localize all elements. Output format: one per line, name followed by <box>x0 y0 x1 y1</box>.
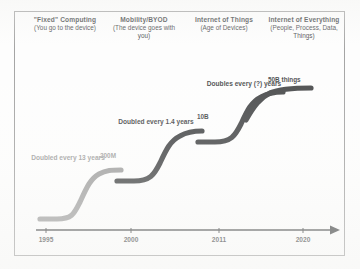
axis-label-2011: 2011 <box>203 236 235 243</box>
figure-canvas: "Fixed" Computing (You go to the device)… <box>0 0 360 269</box>
axis-label-2020: 2020 <box>287 236 319 243</box>
axis-label-1995: 1995 <box>30 236 62 243</box>
timeline-axis <box>0 0 360 269</box>
right-arrow-icon <box>330 226 340 235</box>
axis-label-2000: 2000 <box>115 236 147 243</box>
